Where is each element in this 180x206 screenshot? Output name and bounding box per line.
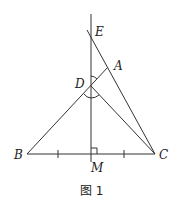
angle-arc-upper [91,76,97,79]
label-a: A [114,60,123,72]
label-e: E [95,26,104,38]
angle-arc-lower-right [91,95,99,98]
figure-caption: 图 1 [80,185,103,197]
label-d: D [75,78,85,90]
geometry-figure: E A D B C M 图 1 [0,0,180,206]
label-c: C [159,149,168,161]
label-b: B [14,149,23,161]
figure-drawing [0,0,180,206]
segment-ba [27,67,108,154]
right-angle-mark [91,148,97,154]
angle-arc-lower-left [84,94,91,98]
label-m: M [91,162,103,174]
